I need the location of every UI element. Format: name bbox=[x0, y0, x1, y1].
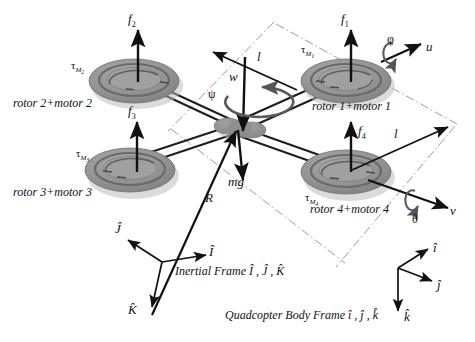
rotor-2-disc bbox=[89, 59, 183, 109]
angular-rate-label-w: w bbox=[229, 70, 238, 83]
body-axis-i bbox=[398, 249, 428, 268]
arm-length-label-right: l bbox=[394, 127, 398, 140]
body-velocity-u bbox=[381, 43, 421, 63]
force-label-f3: f3 bbox=[128, 104, 136, 121]
inertial-axis-label-J: Ĵ bbox=[115, 222, 121, 235]
body-frame-axes bbox=[398, 249, 432, 311]
torque-label-m1: τM1 bbox=[301, 44, 314, 60]
inertial-axis-J bbox=[128, 240, 162, 262]
force-label-f4: f4 bbox=[358, 124, 366, 141]
roll-velocity-label-u: u bbox=[426, 40, 433, 53]
rotor-4-name-label: rotor 4+motor 4 bbox=[310, 203, 389, 215]
inertial-axis-label-K: K̂ bbox=[128, 303, 137, 316]
arm-length-label-top: l bbox=[257, 50, 261, 63]
rotor-1-name-label: rotor 1+motor 1 bbox=[312, 100, 391, 112]
inertial-axis-label-I: Î bbox=[209, 245, 213, 258]
body-axis-label-k: k̂ bbox=[404, 310, 410, 323]
inertial-axis-I bbox=[162, 255, 206, 262]
body-axis-label-j: ĵ bbox=[437, 278, 441, 291]
length-arrow-right bbox=[352, 127, 448, 170]
body-frame-caption: Quadcopter Body Frame î , ĵ , k̂ bbox=[225, 309, 378, 321]
weight-label-mg: mg bbox=[228, 175, 244, 188]
torque-label-m2: τM2 bbox=[71, 60, 84, 76]
force-label-f1: f1 bbox=[341, 12, 349, 29]
pitch-velocity-label-v: v bbox=[450, 204, 456, 217]
body-axis-j bbox=[398, 268, 432, 281]
center-hub bbox=[214, 118, 266, 139]
body-axis-label-i: î bbox=[433, 241, 437, 254]
pitch-label-theta: θ bbox=[412, 213, 418, 225]
inertial-frame-caption: Inertial Frame Î , Ĵ , K̂ bbox=[175, 265, 284, 277]
force-label-f2: f2 bbox=[128, 12, 136, 29]
rotor-3-name-label: rotor 3+motor 3 bbox=[13, 186, 92, 198]
roll-label-phi: φ bbox=[387, 33, 394, 45]
rotor-2-name-label: rotor 2+motor 2 bbox=[13, 97, 92, 109]
angular-rate-arrow-w bbox=[243, 57, 245, 131]
position-vector-label-R: R bbox=[205, 191, 213, 204]
quadcopter-diagram: f2 f3 f1 f4 τM2 τM3 τM1 τM4 rotor 2+moto… bbox=[0, 0, 475, 342]
yaw-label-psi: ψ bbox=[208, 88, 216, 100]
inertial-axis-K bbox=[152, 262, 162, 307]
torque-label-m3: τM3 bbox=[76, 148, 89, 164]
rotor-3-disc bbox=[85, 148, 179, 199]
diagram-canvas bbox=[0, 0, 475, 342]
length-arrow-top bbox=[213, 52, 297, 90]
